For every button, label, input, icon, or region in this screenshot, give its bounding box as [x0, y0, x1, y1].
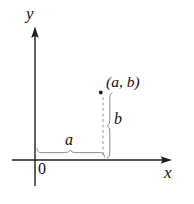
- point-coordinates-label: (a, b): [106, 74, 140, 90]
- x-axis-label: x: [164, 164, 172, 181]
- a-distance-label: a: [65, 132, 73, 148]
- origin-label: 0: [38, 161, 46, 177]
- coordinate-plane-figure: y x 0 (a, b) a b: [0, 0, 194, 204]
- y-axis-arrowhead-icon: [31, 27, 39, 39]
- point-dot: [99, 91, 103, 95]
- y-axis-label: y: [26, 5, 34, 22]
- b-distance-label: b: [114, 111, 122, 127]
- b-distance-brace: [107, 93, 113, 159]
- a-distance-brace: [37, 148, 104, 157]
